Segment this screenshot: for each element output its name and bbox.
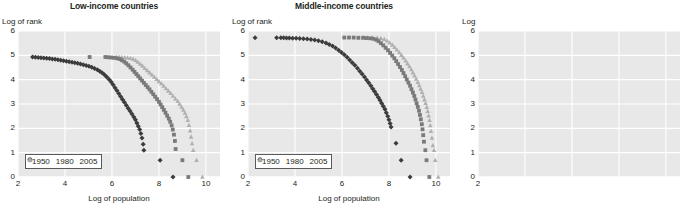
x-tick-label: 10: [426, 180, 446, 188]
panel-low-income: Low-income countries Log of rank Log of …: [0, 0, 228, 209]
legend-label: 1980: [286, 158, 304, 166]
legend-label: 1950: [262, 158, 280, 166]
x-tick-label: 4: [55, 180, 75, 188]
x-tick-label: 6: [102, 180, 122, 188]
gridlines: [478, 31, 680, 177]
y-tick-label: 6: [462, 27, 475, 35]
y-axis-label: Log of rank: [232, 17, 272, 26]
y-tick-label: 2: [462, 124, 475, 132]
legend-item-1980: 1980: [54, 158, 74, 166]
legend-item-1980: 1980: [284, 158, 304, 166]
y-tick-label: 5: [462, 51, 475, 59]
x-tick-label: 4: [285, 180, 305, 188]
legend-label: 2005: [80, 158, 98, 166]
y-tick-label: 3: [232, 100, 245, 108]
legend-item-2005: 2005: [78, 158, 98, 166]
y-tick-label: 6: [232, 27, 245, 35]
legend-item-2005: 2005: [308, 158, 328, 166]
y-axis-label: Log: [462, 17, 475, 26]
y-axis-label: Log of rank: [2, 17, 42, 26]
panel-title: Low-income countries: [0, 1, 228, 11]
x-tick-label: 2: [238, 180, 258, 188]
x-tick-label: 2: [468, 180, 488, 188]
panel-title: Middle-income countries: [230, 1, 458, 11]
legend: 1950 1980 2005: [255, 154, 332, 169]
y-tick-label: 5: [2, 51, 15, 59]
x-tick-label: 6: [332, 180, 352, 188]
y-tick-label: 4: [2, 76, 15, 84]
y-tick-label: 3: [2, 100, 15, 108]
x-tick-label: 2: [8, 180, 28, 188]
y-tick-label: 1: [2, 149, 15, 157]
y-tick-label: 1: [232, 149, 245, 157]
legend-label: 1980: [56, 158, 74, 166]
x-tick-label: 8: [149, 180, 169, 188]
y-tick-label: 4: [232, 76, 245, 84]
panel-third-clipped: Log 0123456 2: [460, 0, 520, 209]
plot-area: [478, 31, 680, 177]
x-axis-label: Log of population: [18, 194, 220, 203]
legend-label: 1950: [32, 158, 50, 166]
x-tick-label: 10: [196, 180, 216, 188]
y-tick-label: 2: [232, 124, 245, 132]
y-tick-label: 3: [462, 100, 475, 108]
y-tick-label: 6: [2, 27, 15, 35]
legend-label: 2005: [310, 158, 328, 166]
y-tick-label: 1: [462, 149, 475, 157]
legend: 1950 1980 2005: [25, 154, 102, 169]
y-tick-label: 4: [462, 76, 475, 84]
y-tick-label: 2: [2, 124, 15, 132]
x-tick-label: 8: [379, 180, 399, 188]
y-tick-label: 5: [232, 51, 245, 59]
x-axis-label: Log of population: [248, 194, 450, 203]
panel-middle-income: Middle-income countries Log of rank Log …: [230, 0, 458, 209]
